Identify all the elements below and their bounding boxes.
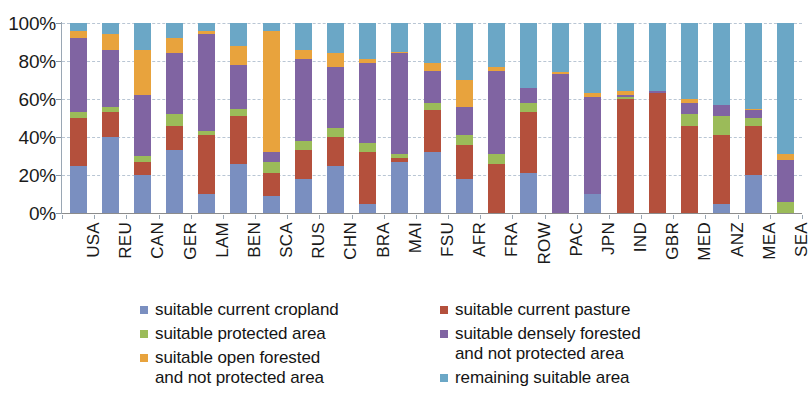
bar-segment [70, 23, 87, 31]
bar-segment [263, 173, 280, 196]
bar-segment [166, 38, 183, 53]
bar-segment [327, 166, 344, 214]
bar-anz [713, 23, 730, 213]
bar-segment [745, 175, 762, 213]
chart-legend: suitable current croplandsuitable protec… [140, 300, 800, 393]
bar-can [134, 23, 151, 213]
bar-ben [230, 23, 247, 213]
bar-segment [295, 141, 312, 151]
bar-rus [295, 23, 312, 213]
y-axis-tick-label: 0% [0, 204, 56, 223]
bar-segment [198, 194, 215, 213]
legend-label: remaining suitable area [455, 368, 629, 388]
bar-segment [198, 34, 215, 131]
bar-segment [520, 103, 537, 113]
bar-segment [134, 95, 151, 156]
y-axis-tick-label: 100% [0, 14, 56, 33]
bar-segment [424, 23, 441, 63]
bar-segment [520, 88, 537, 103]
bar-segment [681, 23, 698, 99]
bar-segment [102, 112, 119, 137]
bar-segment [359, 204, 376, 214]
y-axis-tick-label: 80% [0, 52, 56, 71]
bar-segment [102, 137, 119, 213]
legend-column-left: suitable current croplandsuitable protec… [140, 300, 440, 392]
bar-jpn [584, 23, 601, 213]
x-axis-tick [384, 215, 385, 219]
x-axis-label-afr: AFR [471, 222, 488, 292]
x-axis-label-mai: MAI [407, 222, 424, 292]
x-axis-tick [802, 215, 803, 219]
bar-chn [327, 23, 344, 213]
bar-segment [327, 128, 344, 138]
bar-segment [456, 23, 473, 80]
bar-segment [166, 23, 183, 38]
bar-segment [488, 23, 505, 67]
x-axis-tick [223, 215, 224, 219]
legend-label-line2: and not protected area [455, 344, 641, 364]
bar-segment [424, 71, 441, 103]
bar-segment [488, 71, 505, 155]
bar-segment [584, 23, 601, 93]
bar-segment [263, 31, 280, 153]
y-axis-tick-label: 40% [0, 128, 56, 147]
plot-area [62, 23, 802, 213]
x-axis-label-chn: CHN [342, 222, 359, 292]
bar-segment [327, 137, 344, 166]
bar-segment [230, 116, 247, 164]
bar-segment [263, 196, 280, 213]
bar-segment [552, 74, 569, 213]
x-axis-tick [126, 215, 127, 219]
bar-segment [713, 23, 730, 105]
legend-swatch-icon [440, 330, 448, 338]
bar-segment [456, 107, 473, 136]
x-axis-label-row: ROW [536, 222, 553, 292]
x-axis-labels: USAREUCANGERLAMBENSCARUSCHNBRAMAIFSUAFRF… [62, 215, 802, 285]
bar-segment [649, 93, 666, 213]
y-axis-tick-label: 20% [0, 166, 56, 185]
x-axis-label-jpn: JPN [600, 222, 617, 292]
x-axis-tick [738, 215, 739, 219]
bar-mea [745, 23, 762, 213]
bar-segment [681, 126, 698, 213]
bar-segment [584, 97, 601, 194]
bar-row [520, 23, 537, 213]
bar-segment [552, 23, 569, 72]
x-axis-label-ger: GER [182, 222, 199, 292]
bar-usa [70, 23, 87, 213]
x-axis-label-sca: SCA [278, 222, 295, 292]
legend-column-right: suitable current pasturesuitable densely… [440, 300, 800, 392]
legend-item: suitable current cropland [140, 300, 440, 320]
bar-segment [327, 23, 344, 53]
x-axis-tick [319, 215, 320, 219]
legend-swatch-icon [140, 354, 148, 362]
legend-swatch-icon [440, 306, 448, 314]
x-axis-label-med: MED [696, 222, 713, 292]
x-axis-label-rus: RUS [310, 222, 327, 292]
bar-segment [745, 118, 762, 126]
bar-segment [520, 173, 537, 213]
legend-item: suitable current pasture [440, 300, 800, 320]
x-axis-label-gbr: GBR [664, 222, 681, 292]
x-axis-label-anz: ANZ [729, 222, 746, 292]
bar-segment [456, 179, 473, 213]
x-axis-tick [448, 215, 449, 219]
legend-item: suitable densely forestedand not protect… [440, 324, 800, 364]
bar-segment [359, 143, 376, 153]
legend-item: suitable open forestedand not protected … [140, 348, 440, 388]
bar-segment [134, 23, 151, 50]
x-axis-tick [545, 215, 546, 219]
x-axis-tick [641, 215, 642, 219]
legend-swatch-icon [140, 306, 148, 314]
bar-segment [359, 63, 376, 143]
bar-segment [713, 204, 730, 214]
bar-segment [102, 23, 119, 34]
x-axis-label-pac: PAC [568, 222, 585, 292]
bar-segment [520, 112, 537, 173]
bar-segment [424, 103, 441, 111]
bar-fra [488, 23, 505, 213]
bar-segment [166, 126, 183, 151]
bar-segment [424, 152, 441, 213]
legend-label: suitable densely forestedand not protect… [455, 324, 641, 364]
bar-afr [456, 23, 473, 213]
